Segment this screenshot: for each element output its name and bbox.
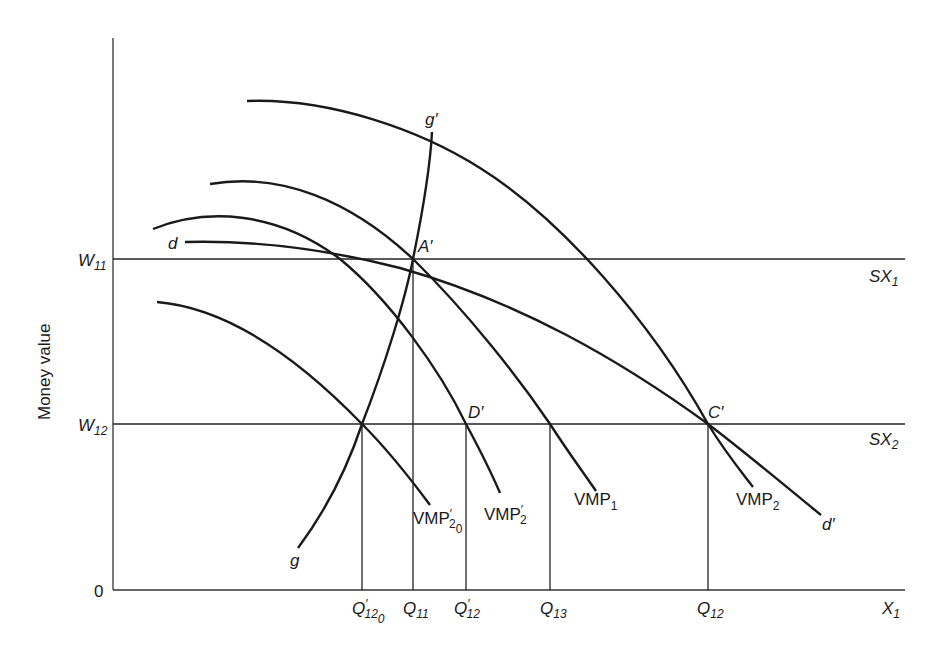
curve-vmp2 bbox=[247, 101, 753, 487]
svg-text:Q12: Q12 bbox=[697, 599, 724, 621]
svg-text:Q11: Q11 bbox=[403, 599, 429, 621]
svg-text:VMP′2: VMP′2 bbox=[484, 503, 527, 527]
svg-text:W12: W12 bbox=[78, 416, 108, 438]
label-vmp2-prime: VMP′2 bbox=[484, 503, 527, 527]
y-tick-w12: W12 bbox=[78, 416, 108, 438]
svg-text:Q′120: Q′120 bbox=[352, 597, 385, 626]
svg-text:W11: W11 bbox=[78, 251, 107, 273]
curve-g bbox=[298, 132, 432, 548]
svg-text:SX1: SX1 bbox=[869, 267, 898, 289]
svg-text:Q′12: Q′12 bbox=[454, 597, 480, 621]
svg-text:VMP1: VMP1 bbox=[574, 490, 618, 513]
sx1-label: SX1 bbox=[869, 267, 898, 289]
curve-vmp1 bbox=[210, 181, 596, 491]
origin-label: 0 bbox=[94, 582, 103, 601]
x-tick-q12-prime: Q′12 bbox=[454, 597, 480, 621]
x-tick-q12: Q12 bbox=[697, 599, 724, 621]
point-label-d: D′ bbox=[468, 403, 484, 422]
point-label-c: C′ bbox=[708, 403, 724, 422]
curve-vmp2-0 bbox=[157, 302, 430, 505]
curve-vmp2-prime bbox=[153, 216, 500, 493]
x-tick-q13: Q13 bbox=[540, 599, 567, 621]
economics-diagram: Money value 0 W11 W12 SX1 SX2 Q′120 Q11 … bbox=[0, 0, 945, 650]
svg-text:VMP′20: VMP′20 bbox=[413, 507, 463, 536]
label-d-prime: d′ bbox=[822, 515, 835, 534]
svg-text:VMP2: VMP2 bbox=[736, 490, 780, 513]
svg-text:X1: X1 bbox=[881, 599, 900, 621]
svg-text:SX2: SX2 bbox=[869, 430, 899, 452]
x-tick-q12-0: Q′120 bbox=[352, 597, 385, 626]
svg-text:Q13: Q13 bbox=[540, 599, 567, 621]
label-vmp1: VMP1 bbox=[574, 490, 618, 513]
y-tick-w11: W11 bbox=[78, 251, 107, 273]
point-label-a: A′ bbox=[417, 237, 433, 256]
sx2-label: SX2 bbox=[869, 430, 899, 452]
label-d: d bbox=[168, 234, 178, 253]
curve-demand-d bbox=[185, 242, 821, 515]
label-g: g bbox=[290, 551, 300, 570]
x-axis-label: X1 bbox=[881, 599, 900, 621]
y-axis-label: Money value bbox=[35, 324, 54, 420]
label-vmp2-0: VMP′20 bbox=[413, 507, 463, 536]
label-vmp2: VMP2 bbox=[736, 490, 780, 513]
label-g-prime: g′ bbox=[425, 110, 438, 129]
x-tick-q11: Q11 bbox=[403, 599, 429, 621]
